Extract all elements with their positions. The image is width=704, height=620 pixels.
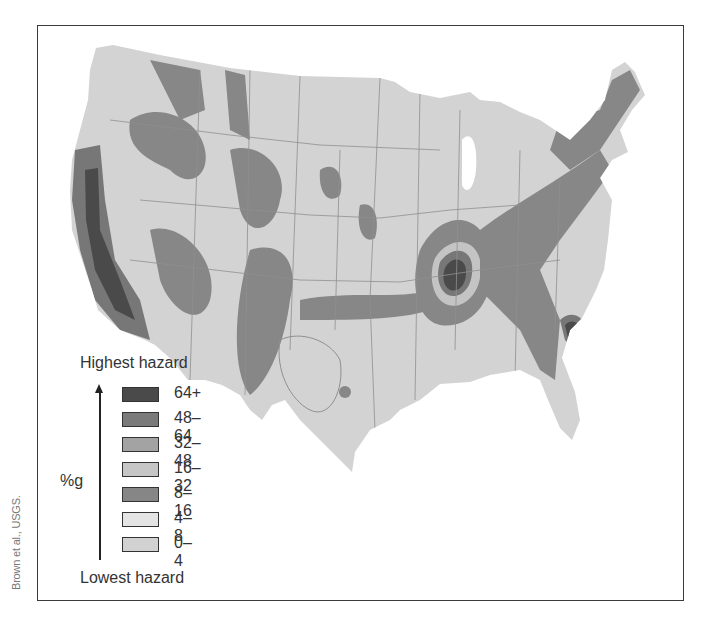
legend-swatch	[122, 512, 159, 527]
legend-swatch	[122, 387, 159, 402]
hazard-legend: Highest hazard %g 64+ 48–64 32–48 16–32 …	[80, 354, 280, 594]
legend-item-label: 64+	[174, 384, 201, 402]
legend-swatch	[122, 537, 159, 552]
legend-swatch	[122, 462, 159, 477]
legend-top-label: Highest hazard	[80, 354, 188, 372]
legend-bottom-label: Lowest hazard	[80, 569, 184, 587]
legend-swatch	[122, 487, 159, 502]
legend-swatch	[122, 437, 159, 452]
legend-swatch	[122, 412, 159, 427]
arrow-up-icon	[99, 392, 101, 560]
image-credit: Brown et al., USGS.	[10, 495, 22, 590]
legend-unit-label: %g	[60, 472, 83, 490]
legend-item-label: 0–4	[174, 534, 192, 570]
